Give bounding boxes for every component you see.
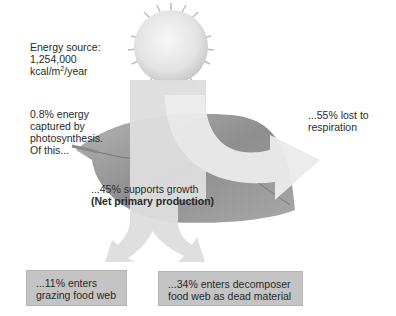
respiration-label: ...55% lost to respiration — [308, 109, 369, 133]
sun-icon — [128, 3, 214, 92]
decomposer-food-web-box: ...34% enters decomposer food web as dea… — [158, 271, 303, 306]
captured-line3: photosynthesis. — [30, 132, 103, 144]
grazing-line1: ...11% enters — [36, 277, 126, 289]
growth-label: ...45% supports growth (Net primary prod… — [91, 183, 214, 207]
energy-source-value: 1,254,000 — [30, 53, 101, 65]
energy-source-unit: kcal/m2/year — [30, 65, 101, 77]
grazing-line2: grazing food web — [36, 289, 126, 301]
captured-line2: captured by — [30, 120, 103, 132]
captured-line4: Of this... — [30, 144, 103, 156]
decomposer-line2: food web as dead material — [168, 290, 302, 302]
decomposer-line1: ...34% enters decomposer — [168, 278, 302, 290]
growth-line1: ...45% supports growth — [91, 183, 214, 195]
grazing-food-web-box: ...11% enters grazing food web — [26, 270, 127, 306]
captured-line1: 0.8% energy — [30, 108, 103, 120]
respiration-line1: ...55% lost to — [308, 109, 369, 121]
respiration-line2: respiration — [308, 121, 369, 133]
photosynthesis-label: 0.8% energy captured by photosynthesis. … — [30, 108, 103, 156]
net-primary-production-label: (Net primary production) — [91, 195, 214, 207]
energy-source-line1: Energy source: — [30, 41, 101, 53]
energy-flow-arrows — [105, 80, 320, 262]
energy-source-label: Energy source: 1,254,000 kcal/m2/year — [30, 41, 101, 77]
